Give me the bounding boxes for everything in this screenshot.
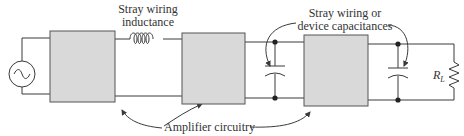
inductance-label-line2: inductance xyxy=(118,16,178,29)
bottom-wire-3 xyxy=(368,88,454,100)
junction-dot xyxy=(272,39,277,44)
amplifier-stray-elements-diagram: Stray wiring inductance Stray wiring or … xyxy=(0,0,464,136)
load-resistor-subscript: L xyxy=(440,75,444,84)
source-bottom-wire xyxy=(22,87,50,94)
capacitance-label: Stray wiring or device capacitances xyxy=(290,7,400,33)
arrow-to-amplifier-3 xyxy=(250,112,310,127)
arrow-to-amplifier-1 xyxy=(122,110,162,128)
amplifier-block-1 xyxy=(50,31,115,102)
junction-dot xyxy=(395,41,400,46)
amplifier-block-3 xyxy=(304,35,368,106)
amplifier-block-2 xyxy=(182,33,245,104)
junction-dot xyxy=(272,95,277,100)
capacitance-label-line2: device capacitances xyxy=(290,20,400,33)
amplifier-label: Amplifier circuitry xyxy=(164,121,248,134)
source-top-wire xyxy=(22,38,50,61)
sine-wave-icon xyxy=(14,70,30,79)
load-resistor-zigzag xyxy=(449,62,459,88)
top-wire-3 xyxy=(368,44,454,62)
inductance-label: Stray wiring inductance xyxy=(118,3,178,29)
inductor-coil xyxy=(130,33,153,44)
junction-dot xyxy=(395,97,400,102)
load-resistor-label: RL xyxy=(433,68,445,84)
